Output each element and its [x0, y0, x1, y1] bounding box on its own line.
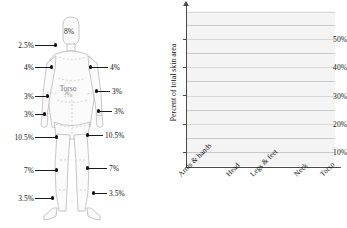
- callout-label-hand-right: 3%: [114, 107, 124, 116]
- gridline-35: [187, 67, 335, 68]
- y-tick-label-30: 30%: [323, 92, 347, 101]
- y-tick-label-10: 10%: [323, 148, 347, 157]
- gridline-40: [187, 53, 335, 54]
- callout-label-thigh-right: 10.5%: [105, 131, 125, 140]
- head-percent-label: 8%: [64, 27, 74, 36]
- bar-chart-panel: 10% 20% 30% 40% 50% Percent of total ski…: [160, 0, 347, 228]
- gridline-20: [187, 110, 335, 111]
- leader-line-upper-arm-left: [35, 67, 51, 68]
- gridline-25: [187, 96, 335, 97]
- leader-line-upper-arm-right: [92, 67, 108, 68]
- figure-skin-area: 8% Torso ?% 2.5% 4% 3% 3% 10.5% 7% 3.5% …: [0, 0, 347, 228]
- y-tick-mark-30: [183, 95, 186, 96]
- gridline-15: [187, 124, 335, 125]
- callout-label-lower-leg-right: 7%: [109, 164, 119, 173]
- y-tick-label-20: 20%: [323, 120, 347, 129]
- callout-label-forearm-right: 3%: [112, 87, 122, 96]
- y-tick-mark-20: [183, 124, 186, 125]
- callout-label-upper-arm-left: 4%: [6, 63, 34, 72]
- torso-percent-label: ?%: [52, 91, 84, 99]
- leader-line-thigh-left: [35, 137, 56, 138]
- y-tick-label-50: 50%: [323, 35, 347, 44]
- y-tick-label-40: 40%: [323, 63, 347, 72]
- callout-label-foot-right: 3.5%: [109, 189, 125, 198]
- callout-label-lower-leg-left: 7%: [6, 166, 34, 175]
- gridline-10: [187, 138, 335, 139]
- leader-line-foot-left: [35, 198, 52, 199]
- gridline-55: [187, 12, 335, 13]
- gridline-45: [187, 39, 335, 40]
- leader-line-shoulder-left: [35, 45, 55, 46]
- y-tick-mark-10: [183, 152, 186, 153]
- leader-line-hand-right: [100, 111, 112, 112]
- y-axis-title: Percent of total skin area: [169, 18, 178, 148]
- gridline-30: [187, 81, 335, 82]
- callout-label-shoulder-left: 2.5%: [6, 41, 34, 50]
- y-tick-mark-50: [183, 39, 186, 40]
- gridline-50: [187, 25, 335, 26]
- y-axis-line: [186, 5, 187, 168]
- callout-label-foot-left: 3.5%: [0, 194, 34, 203]
- leader-line-lower-leg-right: [89, 168, 107, 169]
- callout-label-upper-arm-right: 4%: [110, 63, 120, 72]
- leader-line-forearm-right: [98, 91, 110, 92]
- callout-label-forearm-left: 3%: [6, 92, 34, 101]
- leader-line-thigh-right: [89, 135, 103, 136]
- callout-label-hand-left: 3%: [6, 110, 34, 119]
- leader-line-foot-right: [95, 193, 107, 194]
- y-tick-mark-40: [183, 67, 186, 68]
- leader-line-lower-leg-left: [35, 170, 56, 171]
- body-diagram-panel: 8% Torso ?% 2.5% 4% 3% 3% 10.5% 7% 3.5% …: [0, 0, 160, 228]
- callout-label-thigh-left: 10.5%: [0, 133, 34, 142]
- gridline-5: [187, 152, 335, 153]
